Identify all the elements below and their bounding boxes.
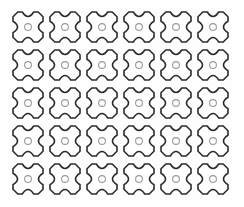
- star-cross-motif: [124, 50, 154, 80]
- star-cross-motif: [87, 12, 117, 42]
- star-cross-motif: [50, 164, 80, 194]
- star-cross-motif: [13, 50, 43, 80]
- star-cross-motif: [198, 50, 228, 80]
- star-cross-motif: [13, 164, 43, 194]
- star-cross-motif: [13, 88, 43, 118]
- star-cross-motif: [161, 126, 191, 156]
- star-cross-motif: [198, 12, 228, 42]
- star-cross-motif: [87, 164, 117, 194]
- star-cross-motif: [161, 88, 191, 118]
- star-cross-motif: [124, 126, 154, 156]
- star-cross-motif: [50, 88, 80, 118]
- star-cross-motif: [161, 164, 191, 194]
- star-cross-motif: [124, 88, 154, 118]
- star-cross-pattern-grid: [0, 0, 244, 207]
- star-cross-motif: [161, 50, 191, 80]
- star-cross-motif: [198, 88, 228, 118]
- star-cross-motif: [198, 164, 228, 194]
- star-cross-motif: [50, 50, 80, 80]
- star-cross-motif: [124, 164, 154, 194]
- star-cross-motif: [87, 88, 117, 118]
- star-cross-motif: [13, 12, 43, 42]
- star-cross-motif: [50, 126, 80, 156]
- star-cross-motif: [87, 126, 117, 156]
- star-cross-motif: [161, 12, 191, 42]
- star-cross-motif: [198, 126, 228, 156]
- pattern-canvas: [0, 0, 244, 207]
- star-cross-motif: [50, 12, 80, 42]
- star-cross-motif: [13, 126, 43, 156]
- star-cross-motif: [124, 12, 154, 42]
- star-cross-motif: [87, 50, 117, 80]
